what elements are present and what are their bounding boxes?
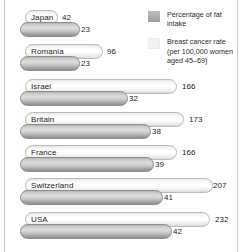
value-fat-intake: 39	[155, 158, 164, 171]
bar-group-france: France 166 39	[0, 145, 245, 179]
bar-row-fat-intake: 42	[0, 224, 245, 239]
legend-swatch-breast-cancer-rate-icon	[148, 38, 160, 49]
legend-label-fat-intake: Percentage of fat intake	[167, 10, 240, 28]
bar-fat-intake	[20, 22, 80, 37]
value-fat-intake: 42	[173, 225, 182, 238]
value-fat-intake: 38	[152, 125, 161, 138]
bar-group-switzerland: Switzerland 207 41	[0, 178, 245, 212]
bar-row-fat-intake: 32	[0, 91, 245, 106]
legend-item-breast-cancer-rate: Breast cancer rate (per 100,000 women ag…	[148, 37, 240, 65]
bar-fat-intake	[20, 124, 151, 139]
chart-container: Japan 42 23 Romania 96 23 Israel 166 32	[0, 0, 245, 252]
value-fat-intake: 23	[81, 57, 90, 70]
bar-fat-intake	[20, 56, 80, 71]
bar-row-fat-intake: 38	[0, 124, 245, 139]
legend-swatch-fat-intake-icon	[148, 11, 160, 22]
legend-item-fat-intake: Percentage of fat intake	[148, 10, 240, 28]
bar-fat-intake	[20, 157, 154, 172]
bar-group-britain: Britain 173 38	[0, 112, 245, 146]
bar-group-israel: Israel 166 32	[0, 79, 245, 113]
bar-fat-intake	[20, 190, 163, 205]
bar-row-fat-intake: 41	[0, 190, 245, 205]
value-fat-intake: 41	[164, 191, 173, 204]
value-fat-intake: 32	[129, 92, 138, 105]
bar-fat-intake	[20, 91, 128, 106]
bar-group-usa: USA 232 42	[0, 212, 245, 246]
value-fat-intake: 23	[81, 23, 90, 36]
bar-fat-intake	[20, 224, 172, 239]
chart-legend: Percentage of fat intake Breast cancer r…	[148, 10, 240, 74]
bar-row-fat-intake: 39	[0, 157, 245, 172]
legend-label-breast-cancer-rate: Breast cancer rate (per 100,000 women ag…	[167, 37, 240, 65]
